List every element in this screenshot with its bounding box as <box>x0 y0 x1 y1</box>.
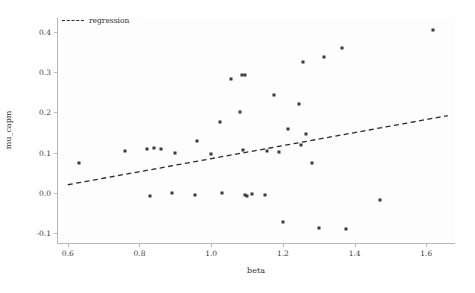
x-tick-mark <box>139 244 140 247</box>
y-tick-mark <box>54 193 57 194</box>
x-tick-mark <box>68 244 69 247</box>
y-tick-mark <box>54 153 57 154</box>
regression-line <box>57 18 455 243</box>
plot-area <box>57 18 455 243</box>
legend-label-regression: regression <box>89 16 129 25</box>
scatter-point <box>170 191 173 194</box>
y-tick-mark <box>54 112 57 113</box>
scatter-point <box>272 94 275 97</box>
scatter-point <box>263 194 266 197</box>
scatter-point <box>240 74 243 77</box>
scatter-point <box>305 133 308 136</box>
y-tick-label: 0.1 <box>39 148 51 157</box>
y-axis-spine <box>57 18 58 243</box>
x-tick-mark <box>211 244 212 247</box>
scatter-point <box>323 55 326 58</box>
x-tick-mark <box>283 244 284 247</box>
y-tick-mark <box>54 32 57 33</box>
x-tick-label: 1.4 <box>349 249 361 258</box>
scatter-point <box>238 111 241 114</box>
scatter-point <box>341 47 344 50</box>
scatter-point <box>152 146 155 149</box>
scatter-point <box>278 150 281 153</box>
x-axis-spine <box>57 243 455 244</box>
scatter-point <box>298 102 301 105</box>
scatter-point <box>244 74 247 77</box>
scatter-point <box>246 194 249 197</box>
scatter-point <box>220 191 223 194</box>
y-tick-mark <box>54 72 57 73</box>
scatter-point <box>281 220 284 223</box>
scatter-point <box>251 193 254 196</box>
y-tick-mark <box>54 233 57 234</box>
scatter-point <box>124 150 127 153</box>
x-axis-label: beta <box>247 266 265 275</box>
x-tick-mark <box>426 244 427 247</box>
scatter-point <box>242 148 245 151</box>
y-tick-label: 0.4 <box>39 28 51 37</box>
scatter-point <box>174 152 177 155</box>
scatter-point <box>77 161 80 164</box>
scatter-point <box>159 148 162 151</box>
y-tick-label: 0.2 <box>39 108 51 117</box>
x-tick-label: 0.6 <box>62 249 74 258</box>
scatter-point <box>378 199 381 202</box>
scatter-chart-figure: 0.60.81.01.21.41.6 -0.10.00.10.20.30.4 b… <box>0 0 475 293</box>
scatter-point <box>194 193 197 196</box>
scatter-point <box>301 61 304 64</box>
scatter-point <box>219 121 222 124</box>
x-tick-mark <box>355 244 356 247</box>
scatter-point <box>317 227 320 230</box>
x-tick-label: 1.0 <box>205 249 217 258</box>
y-axis-label: mu_capm <box>4 111 13 150</box>
y-tick-label: 0.0 <box>39 188 51 197</box>
scatter-point <box>299 143 302 146</box>
x-tick-label: 1.2 <box>277 249 289 258</box>
scatter-point <box>310 161 313 164</box>
y-tick-label: 0.3 <box>39 68 51 77</box>
scatter-point <box>210 153 213 156</box>
legend: regression <box>62 16 129 25</box>
scatter-point <box>432 29 435 32</box>
scatter-point <box>287 128 290 131</box>
scatter-point <box>195 140 198 143</box>
x-tick-label: 0.8 <box>133 249 145 258</box>
x-tick-label: 1.6 <box>420 249 432 258</box>
y-tick-label: -0.1 <box>37 228 51 237</box>
scatter-point <box>265 149 268 152</box>
legend-line-swatch <box>62 20 84 21</box>
scatter-point <box>229 78 232 81</box>
scatter-point <box>344 227 347 230</box>
scatter-point <box>149 194 152 197</box>
scatter-point <box>145 148 148 151</box>
